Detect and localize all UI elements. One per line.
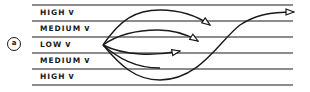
tone-icon: ᴠ — [69, 8, 75, 17]
tone-icon: ᴠ — [84, 56, 90, 65]
frequency-transition-diagram: a HIGHᴠ MEDIUMᴠ LOWᴠ MEDIUMᴠ HIGHᴠ — [0, 0, 310, 92]
figure-marker: a — [7, 37, 21, 51]
row-label-medium-bottom: MEDIUMᴠ — [40, 53, 90, 69]
arrow-low-to-high-s-curve — [103, 12, 294, 80]
row-label-low: LOWᴠ — [40, 37, 71, 53]
row-label-high-bottom: HIGHᴠ — [40, 69, 75, 85]
row-label-high-top: HIGHᴠ — [40, 5, 75, 21]
tone-icon: ᴠ — [84, 24, 90, 33]
arrow-low-to-medium-up — [103, 10, 210, 45]
row-label-medium-top: MEDIUMᴠ — [40, 21, 90, 37]
tone-icon: ᴠ — [69, 72, 75, 81]
tone-icon: ᴠ — [65, 40, 71, 49]
